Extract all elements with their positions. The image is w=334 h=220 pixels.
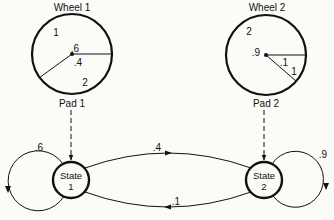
transition-2-to-1-arc — [85, 192, 251, 207]
markov-chain-diagram: Wheel 1 1 .6 .4 2 Pad 1 Wheel 2 2 .9 .1 … — [0, 0, 334, 220]
wheel-1-sector-prob-large: .6 — [71, 43, 80, 54]
wheel-2-pivot — [264, 53, 268, 57]
transition-1-to-2-arc — [85, 153, 251, 168]
wheel-1-sector-number-small: 2 — [82, 77, 88, 88]
self-loop-2-prob: .9 — [319, 149, 328, 160]
transition-1-to-2-prob: .4 — [153, 142, 162, 153]
wheel-2: Wheel 2 2 .9 .1 1 Pad 2 — [226, 2, 306, 160]
transition-2-to-1: .1 — [85, 192, 251, 210]
pad-1-label: Pad 1 — [59, 98, 86, 109]
state-2-node: State 2 — [246, 162, 282, 198]
wheel-2-sector-prob-large: .9 — [252, 47, 261, 58]
state-2-number: 2 — [261, 181, 266, 192]
wheel-1-sector-prob-small: .4 — [74, 57, 83, 68]
wheel-1: Wheel 1 1 .6 .4 2 Pad 1 — [32, 2, 112, 160]
state-1-number: 1 — [68, 181, 73, 192]
state-1-node: State 1 — [53, 162, 89, 198]
transition-2-to-1-arrowhead-icon — [164, 205, 171, 210]
transition-1-to-2: .4 — [85, 142, 251, 168]
pad-2-label: Pad 2 — [253, 98, 280, 109]
wheel-1-divider — [39, 54, 72, 78]
wheel-2-sector-number-small: 1 — [291, 66, 297, 77]
transition-2-to-1-prob: .1 — [172, 196, 181, 207]
wheel-1-title: Wheel 1 — [54, 2, 91, 13]
wheel-2-title: Wheel 2 — [249, 2, 286, 13]
self-loop-1-prob: .6 — [35, 142, 44, 153]
wheel-1-sector-number-large: 1 — [53, 27, 59, 38]
state-2-name: State — [253, 170, 275, 181]
transition-1-to-2-arrowhead-icon — [165, 151, 172, 156]
state-1-name: State — [60, 170, 82, 181]
wheel-2-sector-number-large: 2 — [246, 26, 252, 37]
self-loop-2-arrowhead-icon — [323, 183, 329, 190]
wheel-2-sector-prob-small: .1 — [280, 57, 289, 68]
